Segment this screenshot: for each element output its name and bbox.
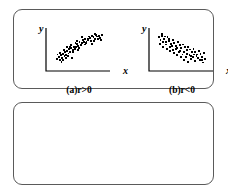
scatter-dot xyxy=(177,41,179,43)
scatter-dot xyxy=(176,54,178,56)
scatter-dot xyxy=(91,43,93,45)
scatter-dot xyxy=(172,39,174,41)
scatter-dot xyxy=(187,46,189,48)
scatter-dot xyxy=(165,44,167,46)
scatter-dot xyxy=(173,42,175,44)
x-axis-label-b: x xyxy=(226,66,228,76)
scatter-dot xyxy=(192,56,194,58)
scatter-dot xyxy=(190,55,192,57)
scatter-dot xyxy=(194,51,196,53)
scatter-dot xyxy=(69,46,71,48)
scatter-dot xyxy=(198,50,200,52)
scatter-dot xyxy=(71,57,73,59)
scatter-dot xyxy=(169,50,171,52)
scatter-dot xyxy=(162,41,164,43)
scatter-dot xyxy=(182,44,184,46)
scatter-dot xyxy=(182,54,184,56)
scatter-dot xyxy=(193,54,195,56)
scatter-dot xyxy=(61,61,63,63)
scatter-dot xyxy=(200,53,202,55)
scatter-dot xyxy=(165,41,167,43)
scatter-dot xyxy=(90,40,92,42)
scatter-dot xyxy=(63,49,65,51)
scatter-dot xyxy=(89,37,91,39)
scatter-dot xyxy=(196,55,198,57)
scatter-dot xyxy=(67,55,69,57)
scatter-dot xyxy=(81,36,83,38)
y-axis-label-b: y xyxy=(142,24,146,34)
scatter-dot xyxy=(164,36,166,38)
scatter-dot xyxy=(161,33,163,35)
scatter-dot xyxy=(202,62,204,64)
scatter-dot xyxy=(56,58,58,60)
scatter-dot xyxy=(166,48,168,50)
scatter-dot xyxy=(163,38,165,40)
scatter-dot xyxy=(180,47,182,49)
scatter-dot xyxy=(80,44,82,46)
y-axis-label-a: y xyxy=(39,24,43,34)
panel-caption-b: (b)r<0 xyxy=(143,86,221,96)
scatter-dot xyxy=(76,40,78,42)
scatter-dot xyxy=(101,34,103,36)
scatter-dot xyxy=(183,59,185,61)
scatter-dot xyxy=(75,42,77,44)
scatter-dot xyxy=(186,53,188,55)
scatter-dot xyxy=(179,44,181,46)
scatter-dot xyxy=(171,45,173,47)
panel-group-top: y x (a)r>0 y x (b)r<0 xyxy=(13,9,214,89)
scatter-dot xyxy=(77,49,79,51)
scatter-dot xyxy=(184,46,186,48)
scatter-dot xyxy=(183,51,185,53)
scatter-dot xyxy=(185,56,187,58)
x-axis-label-a: x xyxy=(123,66,128,76)
scatter-dot xyxy=(173,52,175,54)
scatter-dot xyxy=(189,49,191,51)
correlation-scatter-figure: y x (a)r>0 y x (b)r<0 y x (c)r=0 xyxy=(0,0,228,194)
scatter-dot xyxy=(74,48,76,50)
scatter-dot xyxy=(168,38,170,40)
panel-caption-a: (a)r>0 xyxy=(40,86,118,96)
scatter-dot xyxy=(169,46,171,48)
scatter-panel-a: y x (a)r>0 xyxy=(40,26,118,84)
scatter-dot xyxy=(57,54,59,56)
scatter-dot xyxy=(65,57,67,59)
scatter-dot xyxy=(72,51,74,53)
scatter-dot xyxy=(85,42,87,44)
scatter-dot xyxy=(159,43,161,45)
scatter-dot xyxy=(66,46,68,48)
scatter-dot xyxy=(193,48,195,50)
scatter-dot xyxy=(158,36,160,38)
scatter-dot xyxy=(162,46,164,48)
scatter-dot xyxy=(187,61,189,63)
scatter-dot xyxy=(180,56,182,58)
scatter-dot xyxy=(87,39,89,41)
scatter-dot xyxy=(203,52,205,54)
scatter-dot xyxy=(172,49,174,51)
scatter-dot xyxy=(179,50,181,52)
scatter-dot xyxy=(204,58,206,60)
scatter-dot xyxy=(59,52,61,54)
scatter-dot xyxy=(100,39,102,41)
scatter-dot xyxy=(176,47,178,49)
scatter-panel-b: y x (b)r<0 xyxy=(143,26,221,84)
panel-group-bottom: y x (c)r=0 y x (d)r=0 xyxy=(13,102,214,185)
scatter-dot xyxy=(94,33,96,35)
axes-a xyxy=(40,26,118,84)
scatter-dot xyxy=(93,40,95,42)
scatter-dot xyxy=(199,59,201,61)
scatter-dot xyxy=(186,49,188,51)
scatter-dot xyxy=(194,60,196,62)
scatter-dot xyxy=(201,56,203,58)
